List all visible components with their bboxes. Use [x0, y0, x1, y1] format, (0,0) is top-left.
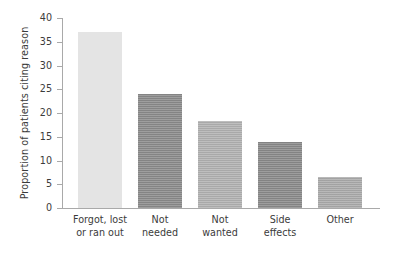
x-axis-line: [62, 208, 380, 209]
bar: [318, 177, 362, 208]
plot-area: [62, 18, 380, 208]
bar-texture: [318, 177, 362, 208]
y-tick-label: 35: [12, 37, 52, 47]
y-tick-label: 40: [12, 13, 52, 23]
x-axis-label-line: effects: [237, 227, 323, 240]
x-axis-label: Other: [297, 214, 383, 227]
y-tick: [57, 208, 62, 209]
y-tick-label: 30: [12, 61, 52, 71]
y-tick-label: 0: [12, 203, 52, 213]
bar-texture: [138, 94, 182, 208]
bar-chart: Proportion of patients citing reason 051…: [0, 0, 398, 257]
y-tick-label: 20: [12, 108, 52, 118]
bar-texture: [258, 142, 302, 208]
bar-texture: [198, 121, 242, 208]
bar: [258, 142, 302, 208]
y-tick-label: 25: [12, 84, 52, 94]
bar: [138, 94, 182, 208]
bar: [78, 32, 122, 208]
y-tick-label: 5: [12, 179, 52, 189]
x-axis-label-line: Other: [297, 214, 383, 227]
y-tick-label: 10: [12, 156, 52, 166]
y-tick-label: 15: [12, 132, 52, 142]
bar: [198, 121, 242, 208]
